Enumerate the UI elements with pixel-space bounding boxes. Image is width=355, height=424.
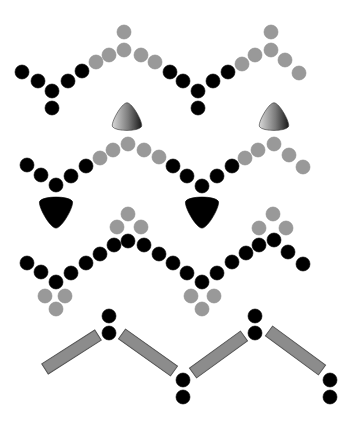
black-bead [64,169,78,183]
grey-bead [134,48,148,62]
black-bead [195,179,209,193]
grey-bead [279,221,293,235]
black-bead [248,326,262,340]
black-bead [180,266,194,280]
black-bead [49,275,63,289]
grey-bead [106,143,120,157]
black-bead [163,65,177,79]
grey-bead [278,53,292,67]
black-bead [267,233,281,247]
grey-bead [117,43,131,57]
black-bead [64,266,78,280]
grey-bead [121,207,135,221]
black-bead [239,246,253,260]
grey-bead [49,302,63,316]
grey-bead [148,55,162,69]
grey-bead [282,148,296,162]
row-1-chain [15,25,306,115]
black-bead [93,247,107,261]
black-bead [34,265,48,279]
grey-bead [137,143,151,157]
grey-bead [238,151,252,165]
rod-segment [189,331,247,378]
rod-segment [265,326,325,375]
black-bead [137,238,151,252]
grey-bead [264,25,278,39]
grey-bead [152,150,166,164]
black-bead [210,169,224,183]
grey-bead [58,289,72,303]
black-bead [195,275,209,289]
black-bead [191,84,205,98]
black-bead [323,373,337,387]
grey-bead [121,137,135,151]
black-bead [176,373,190,387]
black-bead [166,256,180,270]
black-bead [166,159,180,173]
black-bead [102,326,116,340]
black-bead [248,309,262,323]
black-bead [34,168,48,182]
black-bead [180,169,194,183]
grey-bead [93,151,107,165]
grey-bead [195,302,209,316]
grey-bead [266,207,280,221]
black-bead [79,256,93,270]
black-cap-shape [39,197,72,228]
black-bead [121,234,135,248]
black-bead [176,390,190,404]
grey-bead [264,43,278,57]
black-bead [79,159,93,173]
black-bead [49,178,63,192]
grey-bead [248,48,262,62]
grey-bead [207,289,221,303]
black-bead [221,65,235,79]
rod-segment [119,329,178,376]
black-bead [206,74,220,88]
black-bead [20,256,34,270]
black-bead [75,64,89,78]
black-bead [15,65,29,79]
black-bead [296,257,310,271]
row-2-chain [20,137,310,193]
grey-bead [89,55,103,69]
black-bead [191,101,205,115]
grey-bead [235,57,249,71]
bars-layer [42,326,326,378]
black-bead [210,266,224,280]
chain-diagram [0,0,355,424]
grey-bead [252,221,266,235]
grey-cap-shape [259,103,288,131]
grey-bead [251,143,265,157]
black-cap-shape [185,197,218,228]
grey-bead [267,137,281,151]
black-bead [102,309,116,323]
black-bead [107,238,121,252]
grey-bead [117,25,131,39]
black-bead [61,74,75,88]
grey-bead [134,220,148,234]
black-bead [252,238,266,252]
rod-segment [42,330,101,374]
grey-bead [296,160,310,174]
black-bead [176,74,190,88]
grey-bead [110,220,124,234]
black-bead [323,390,337,404]
black-bead [225,255,239,269]
black-bead [31,74,45,88]
black-bead [225,159,239,173]
black-bead [45,84,59,98]
grey-bead [292,66,306,80]
grey-bead [38,289,52,303]
row-3-chain [20,207,310,316]
grey-bead [102,48,116,62]
black-bead [20,158,34,172]
blobs-layer [39,103,288,228]
black-bead [281,245,295,259]
black-bead [45,101,59,115]
grey-cap-shape [112,103,141,131]
grey-bead [184,289,198,303]
black-bead [152,247,166,261]
